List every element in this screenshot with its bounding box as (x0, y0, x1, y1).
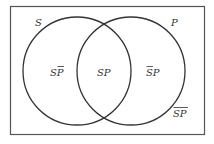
region-s-notp-p: P (56, 67, 64, 78)
svg-text:SP: SP (146, 67, 160, 78)
set-label-s: S (35, 17, 42, 28)
set-label-p: P (170, 17, 178, 28)
region-label-s-and-p: SP (97, 67, 111, 78)
svg-text:SP: SP (50, 67, 64, 78)
svg-text:SP: SP (97, 67, 111, 78)
region-label-not-s-p: SP (146, 67, 160, 79)
region-nots-p-p: P (152, 67, 160, 78)
region-label-not-s-not-p: SP (173, 108, 188, 120)
region-label-s-not-p: SP (50, 67, 64, 79)
region-sp-p: P (103, 67, 111, 78)
venn-diagram: S P SP SP SP SP (0, 0, 214, 144)
region-nots-notp-text: SP (173, 108, 187, 119)
